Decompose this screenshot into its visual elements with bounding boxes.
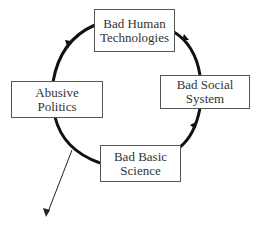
cycle-arc-left-top <box>53 25 95 82</box>
cycle-arc-right-bottom <box>180 108 200 147</box>
exit-arrow <box>48 150 72 212</box>
node-label-line: Abusive <box>35 86 78 100</box>
node-label-line: Bad Basic <box>114 150 167 164</box>
node-bad-human-technologies: Bad Human Technologies <box>94 9 175 52</box>
arrowhead-icon <box>182 34 189 40</box>
node-label-line: Bad Social <box>177 78 234 92</box>
node-bad-basic-science: Bad Basic Science <box>100 145 181 182</box>
node-bad-social-system: Bad Social System <box>160 75 250 109</box>
node-label-line: Technologies <box>100 31 169 45</box>
node-abusive-politics: Abusive Politics <box>11 81 103 118</box>
node-label-line: Science <box>120 164 160 178</box>
node-label-line: System <box>186 92 224 106</box>
node-label-line: Bad Human <box>103 17 165 31</box>
cycle-arc-left-bottom <box>55 117 100 163</box>
node-label-line: Politics <box>37 100 76 114</box>
